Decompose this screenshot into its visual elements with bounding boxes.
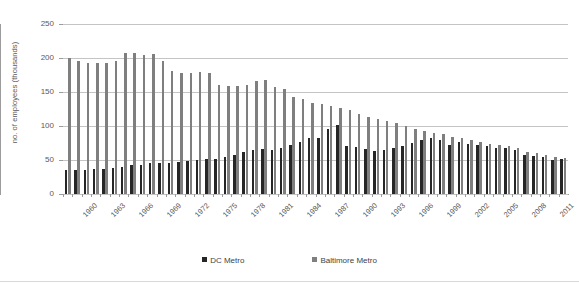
bar-dc-metro xyxy=(224,157,227,194)
x-axis-tick-label: 1990 xyxy=(361,201,379,219)
x-axis-tick-label: 2002 xyxy=(473,201,491,219)
bar-baltimore-metro xyxy=(339,108,342,194)
bar-dc-metro xyxy=(186,161,189,194)
bar-baltimore-metro xyxy=(77,61,80,194)
bar-baltimore-metro xyxy=(208,73,211,194)
x-axis-tick-mark xyxy=(278,194,279,197)
y-axis-tick-label: 250 xyxy=(14,20,54,28)
legend-entry-dc-metro[interactable]: DC Metro xyxy=(202,256,244,265)
bar-baltimore-metro xyxy=(433,133,436,194)
bar-baltimore-metro xyxy=(414,129,417,194)
bar-dc-metro xyxy=(383,150,386,194)
legend-swatch-icon xyxy=(312,257,317,262)
x-axis-tick-mark xyxy=(119,194,120,197)
bar-group xyxy=(185,24,194,194)
x-axis-tick-label: 1999 xyxy=(445,201,463,219)
x-axis-tick-mark xyxy=(325,194,326,197)
bar-baltimore-metro xyxy=(171,71,174,194)
x-axis-tick-mark xyxy=(334,194,335,197)
bar-group xyxy=(390,24,399,194)
bar-baltimore-metro xyxy=(377,119,380,194)
bar-baltimore-metro xyxy=(386,121,389,194)
bar-dc-metro xyxy=(486,146,489,194)
x-axis-tick-mark xyxy=(185,194,186,197)
x-axis-tick-mark xyxy=(428,194,429,197)
bar-group xyxy=(100,24,109,194)
x-axis-tick-mark xyxy=(456,194,457,197)
x-axis-tick-mark xyxy=(390,194,391,197)
bar-group xyxy=(203,24,212,194)
bar-baltimore-metro xyxy=(274,87,277,194)
x-axis-tick-label: 1984 xyxy=(305,201,323,219)
bar-group xyxy=(119,24,128,194)
bar-baltimore-metro xyxy=(470,140,473,194)
x-axis-tick-label: 2011 xyxy=(557,201,575,219)
bar-baltimore-metro xyxy=(517,148,520,194)
bar-dc-metro xyxy=(214,159,217,194)
bar-dc-metro xyxy=(149,163,152,194)
bar-dc-metro xyxy=(345,146,348,194)
bar-baltimore-metro xyxy=(395,123,398,194)
bar-baltimore-metro xyxy=(87,63,90,194)
bar-group xyxy=(362,24,371,194)
bar-baltimore-metro xyxy=(105,63,108,194)
bar-dc-metro xyxy=(289,145,292,194)
bar-group xyxy=(446,24,455,194)
bar-group xyxy=(231,24,240,194)
bar-group xyxy=(456,24,465,194)
bar-dc-metro xyxy=(93,169,96,194)
bar-dc-metro xyxy=(523,155,526,194)
x-axis-tick-mark xyxy=(372,194,373,197)
bar-dc-metro xyxy=(476,145,479,194)
bar-baltimore-metro xyxy=(152,54,155,194)
bar-dc-metro xyxy=(102,169,105,194)
bar-baltimore-metro xyxy=(545,155,548,194)
bar-dc-metro xyxy=(233,155,236,194)
y-axis-tick-label: 0 xyxy=(14,190,54,198)
bar-baltimore-metro xyxy=(302,99,305,194)
x-axis-tick-mark xyxy=(175,194,176,197)
bar-baltimore-metro xyxy=(479,142,482,194)
bar-dc-metro xyxy=(177,162,180,194)
x-axis-tick-label: 1969 xyxy=(165,201,183,219)
bar-dc-metro xyxy=(308,138,311,194)
bar-baltimore-metro xyxy=(227,86,230,194)
bar-group xyxy=(334,24,343,194)
bar-baltimore-metro xyxy=(133,53,136,194)
x-axis-tick-mark xyxy=(521,194,522,197)
bar-baltimore-metro xyxy=(349,110,352,194)
bar-dc-metro xyxy=(411,143,414,194)
bar-baltimore-metro xyxy=(330,106,333,194)
bar-baltimore-metro xyxy=(180,73,183,194)
bar-dc-metro xyxy=(158,163,161,194)
bar-group xyxy=(72,24,81,194)
bar-baltimore-metro xyxy=(199,72,202,194)
bar-baltimore-metro xyxy=(564,158,567,194)
x-axis-tick-mark xyxy=(409,194,410,197)
bar-group xyxy=(381,24,390,194)
x-axis-tick-mark xyxy=(306,194,307,197)
bar-dc-metro xyxy=(420,140,423,194)
bar-baltimore-metro xyxy=(405,126,408,194)
bar-baltimore-metro xyxy=(423,131,426,194)
bottom-divider xyxy=(0,281,579,282)
bar-baltimore-metro xyxy=(358,114,361,194)
bar-group xyxy=(166,24,175,194)
bar-group xyxy=(91,24,100,194)
bar-dc-metro xyxy=(373,151,376,194)
bar-dc-metro xyxy=(121,167,124,194)
bar-group xyxy=(241,24,250,194)
bar-group xyxy=(521,24,530,194)
bar-dc-metro xyxy=(74,170,77,194)
x-axis-tick-mark xyxy=(241,194,242,197)
y-axis-tick-label: 50 xyxy=(14,156,54,164)
bar-baltimore-metro xyxy=(264,80,267,194)
bar-baltimore-metro xyxy=(536,153,539,194)
bar-baltimore-metro xyxy=(367,117,370,194)
x-axis-tick-mark xyxy=(484,194,485,197)
bar-dc-metro xyxy=(355,147,358,194)
bar-dc-metro xyxy=(196,160,199,194)
x-axis-tick-label: 1978 xyxy=(249,201,267,219)
legend-entry-baltimore-metro[interactable]: Baltimore Metro xyxy=(312,256,376,265)
bar-group xyxy=(418,24,427,194)
